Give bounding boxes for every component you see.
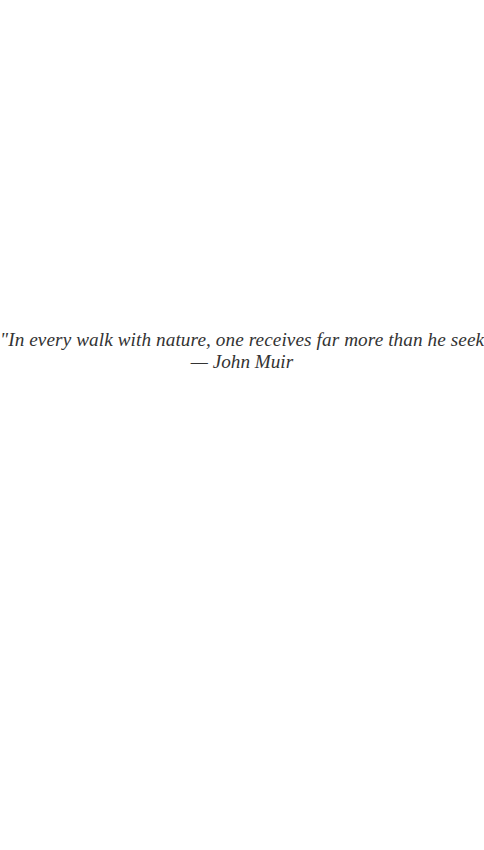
quote-block: "In every walk with nature, one receives… (0, 329, 484, 373)
page: "In every walk with nature, one receives… (0, 0, 484, 850)
quote-text: "In every walk with nature, one receives… (0, 329, 484, 351)
quote-author: — John Muir (0, 351, 484, 373)
